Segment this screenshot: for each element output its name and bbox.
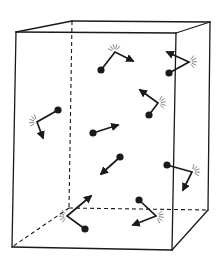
trajectory-arrow-icon (167, 165, 192, 190)
molecule-dot-icon (89, 129, 96, 136)
molecule-dot-icon (116, 153, 123, 160)
molecule-m6 (101, 153, 124, 174)
box-edge-back-top (72, 21, 210, 22)
molecule-dot-icon (54, 106, 61, 113)
collision-spark-icon (193, 164, 200, 175)
trajectory-arrow-icon (140, 90, 158, 115)
molecule-m7 (163, 161, 200, 190)
trajectory-arrow-icon (133, 200, 156, 225)
collision-spark-icon (59, 210, 65, 223)
molecule-m9 (133, 196, 164, 225)
trajectory-arrow-icon (101, 52, 133, 70)
molecule-dot-icon (81, 225, 88, 232)
diagram-canvas: Gas molecules in a box colliding with wa… (0, 0, 221, 259)
box-edge-back-right (208, 22, 210, 210)
box-edge-back-left-vertical (69, 21, 72, 208)
molecule-dot-icon (145, 111, 152, 118)
molecule-m5 (89, 125, 118, 137)
molecule-m2 (165, 52, 197, 77)
gas-box-diagram (0, 0, 221, 259)
molecule-dot-icon (165, 69, 172, 76)
collision-spark-icon (29, 114, 36, 126)
box-edge-front-left (12, 32, 16, 247)
trajectory-arrow-icon (101, 157, 120, 174)
molecule-m4 (29, 106, 62, 138)
box-edge-bottom-left-depth (12, 208, 69, 247)
collision-spark-icon (191, 56, 197, 69)
box-edge-front-bottom (12, 247, 172, 250)
molecule-m1 (97, 44, 133, 73)
molecule-dot-icon (97, 66, 104, 73)
molecule-m3 (140, 90, 166, 119)
collision-spark-icon (108, 44, 120, 51)
box-edge-bottom-right-depth (172, 210, 208, 250)
trajectory-arrow-icon (67, 196, 91, 229)
molecule-dot-icon (135, 196, 142, 203)
molecule-dot-icon (163, 161, 170, 168)
box-edge-front-right (172, 33, 176, 250)
molecule-m8 (59, 196, 91, 233)
box-edge-top-left-depth (16, 21, 72, 32)
collision-spark-icon (159, 96, 165, 108)
box-edge-front-top (16, 32, 176, 33)
collision-spark-icon (157, 211, 163, 223)
trajectory-arrow-icon (37, 110, 58, 138)
trajectory-arrow-icon (93, 125, 118, 133)
box-edge-top-right-depth (176, 22, 210, 33)
box-edge-back-bottom (69, 208, 208, 210)
